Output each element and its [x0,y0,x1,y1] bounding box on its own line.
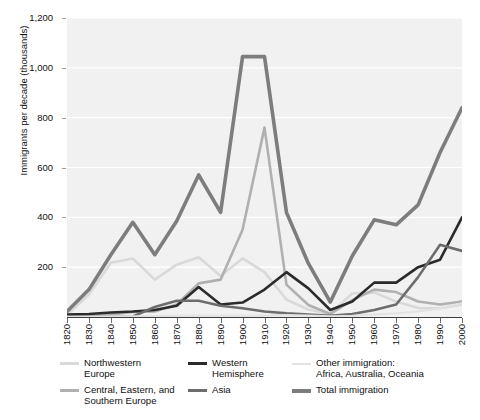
legend-swatch-western-hemisphere [188,362,207,365]
x-axis-tick-label: 1970 [391,324,401,345]
x-axis-tick-label: 1820 [62,324,72,345]
y-axis-tick-label: 200 [37,262,53,272]
legend-label: Western Hemisphere [212,358,264,379]
y-axis-tick-mark [62,267,66,268]
y-axis-tick-label: 1,200 [29,13,53,23]
legend-swatch-total-immigration [292,389,311,394]
x-axis-tick-mark [352,318,353,323]
legend-column-3: Other immigration: Africa, Australia, Oc… [292,358,480,411]
y-axis-tick-mark [62,217,66,218]
x-axis-tick-label: 1910 [260,324,270,345]
legend-swatch-asia [188,389,207,392]
legend-swatch-other-immigration [292,363,311,365]
legend-label: Other immigration: Africa, Australia, Oc… [316,358,424,379]
plot-svg [67,18,462,317]
x-axis-tick-label: 1880 [194,324,204,345]
series-line-asia [67,245,462,317]
legend-item[interactable]: Asia [188,385,296,405]
x-axis-tick-mark [462,318,463,323]
legend-swatch-central-eastern-southern-europe [60,389,79,392]
x-axis-tick-label: 1990 [435,324,445,345]
legend-item[interactable]: Central, Eastern, and Southern Europe [60,385,195,406]
legend-column-2: Western HemisphereAsia [188,358,296,411]
legend-label: Asia [212,385,231,396]
legend-item[interactable]: Other immigration: Africa, Australia, Oc… [292,358,480,379]
legend-item[interactable]: Total immigration [292,385,480,405]
y-axis-tick-mark [62,118,66,119]
x-axis-tick-mark [440,318,441,323]
x-axis-tick-mark [286,318,287,323]
legend-swatch-northwestern-europe [60,362,79,365]
x-axis-tick-label: 1860 [150,324,160,345]
x-axis-tick-label: 1870 [172,324,182,345]
y-axis-tick-label: 400 [37,212,53,222]
x-axis-tick-label: 1960 [369,324,379,345]
x-axis-tick-label: 1950 [347,324,357,345]
chart-legend: Northwestern EuropeCentral, Eastern, and… [60,358,480,414]
y-axis-tick-mark [62,18,66,19]
x-axis-tick-mark [374,318,375,323]
x-axis-tick-label: 1890 [216,324,226,345]
x-axis-tick-mark [265,318,266,323]
y-axis-tick-label: 800 [37,113,53,123]
legend-label: Total immigration [316,385,389,396]
x-axis-tick-label: 1900 [238,324,248,345]
x-axis-tick-label: 1930 [303,324,313,345]
legend-column-1: Northwestern EuropeCentral, Eastern, and… [60,358,195,412]
y-axis-tick-label: 600 [37,163,53,173]
legend-label: Central, Eastern, and Southern Europe [84,385,175,406]
y-axis-tick-label: 1,000 [29,63,53,73]
y-axis-tick-mark [62,68,66,69]
x-axis-tick-mark [155,318,156,323]
x-axis-tick-mark [89,318,90,323]
x-axis-tick-label: 1980 [413,324,423,345]
x-axis-tick-label: 2000 [457,324,467,345]
series-line-northwestern-europe [67,257,462,315]
x-axis-tick-mark [133,318,134,323]
immigration-line-chart: Immigrants per decade (thousands) 1,2001… [0,0,480,420]
y-axis-tick-group: 1,2001,000800600400200 [0,0,62,420]
x-axis-tick-mark [177,318,178,323]
x-axis-tick-label: 1830 [84,324,94,345]
x-axis-tick-label: 1940 [325,324,335,345]
x-axis-tick-mark [418,318,419,323]
x-axis-tick-mark [243,318,244,323]
x-axis-tick-label: 1920 [281,324,291,345]
x-axis-tick-mark [221,318,222,323]
x-axis-tick-mark [111,318,112,323]
x-axis-tick-label: 1840 [106,324,116,345]
legend-item[interactable]: Western Hemisphere [188,358,296,379]
data-series-group [67,57,462,317]
x-axis-tick-mark [67,318,68,323]
x-axis-tick-mark [199,318,200,323]
x-axis-tick-mark [308,318,309,323]
legend-label: Northwestern Europe [84,358,141,379]
plot-area [67,18,462,317]
legend-item[interactable]: Northwestern Europe [60,358,195,379]
x-axis-tick-label: 1850 [128,324,138,345]
series-line-other-immigration-africa-australia-oceania [67,303,462,316]
x-axis-tick-mark [396,318,397,323]
y-axis-tick-mark [62,168,66,169]
x-axis-tick-mark [330,318,331,323]
